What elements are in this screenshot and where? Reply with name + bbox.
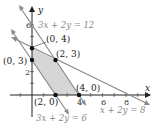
y-axis-arrow-icon [29,6,35,12]
point-label-0-3: (0, 3) [3,56,27,66]
equation-label-1: 3x + 2y = 12 [38,20,94,30]
point-0-3 [30,58,34,62]
y-tick-6: 6 [26,21,31,30]
point-4-0 [77,93,81,97]
equation-label-2: 3x + 2y = 6 [36,113,87,123]
x-axis-label: x [145,83,150,93]
feasible-region-graph: y x 6 2 4 6 8 3x + 2y = 12 3x + 2y = 6 x… [0,0,154,132]
point-label-4-0: (4, 0) [76,83,100,93]
x-tick-4: 4 [77,98,82,107]
y-axis-label: y [37,5,44,15]
equation-label-3: x + 2y = 8 [100,105,146,115]
point-label-2-0: (2, 0) [34,97,58,107]
y-tick-2: 2 [25,68,30,77]
point-label-0-4: (0, 4) [46,34,70,44]
point-label-2-3: (2, 3) [56,49,80,59]
